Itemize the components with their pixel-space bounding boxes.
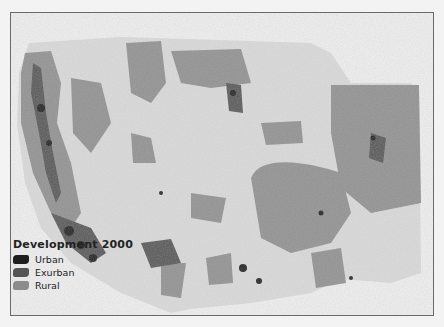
exurban-swatch-icon [13, 268, 29, 277]
legend-label: Exurban [35, 267, 74, 278]
urban-swatch-icon [13, 255, 29, 264]
rural-swatch-icon [13, 281, 29, 290]
legend-item-rural: Rural [13, 279, 133, 292]
legend-label: Rural [35, 280, 60, 291]
legend-label: Urban [35, 254, 64, 265]
legend-title: Development 2000 [13, 238, 133, 251]
map-legend: Development 2000 Urban Exurban Rural [13, 238, 133, 292]
legend-item-urban: Urban [13, 253, 133, 266]
legend-item-exurban: Exurban [13, 266, 133, 279]
